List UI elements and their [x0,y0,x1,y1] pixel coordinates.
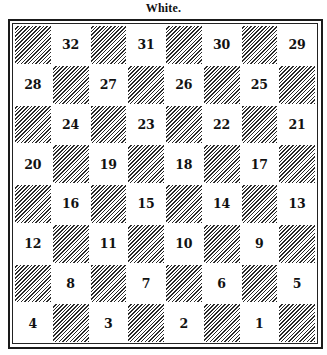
board-title: White. [0,1,327,16]
dark-square-hatched [279,66,315,104]
light-square: 28 [14,65,52,105]
square-number: 4 [29,316,38,331]
square-number: 12 [24,236,41,251]
light-square: 7 [127,264,165,304]
square-number: 27 [100,77,117,92]
square-number: 30 [213,37,230,52]
light-square: 26 [165,65,203,105]
square-number: 28 [24,77,41,92]
dark-square-hatched [91,185,127,223]
light-square: 13 [278,184,316,224]
dark-square-hatched [204,225,240,263]
square-number: 23 [137,117,154,132]
square-number: 7 [142,276,151,291]
light-square: 18 [165,144,203,184]
light-square: 12 [14,224,52,264]
square-number: 18 [175,157,192,172]
square-number: 8 [66,276,75,291]
square-number: 29 [288,37,305,52]
square-number: 20 [24,157,41,172]
dark-square-hatched [91,26,127,64]
dark-square-hatched [53,304,89,342]
light-square: 14 [203,184,241,224]
dark-square-hatched [204,66,240,104]
dark-square-hatched [279,304,315,342]
square-number: 15 [137,196,154,211]
dark-square-hatched [128,145,164,183]
light-square: 16 [52,184,90,224]
light-square: 21 [278,105,316,145]
dark-square-hatched [91,265,127,303]
light-square: 27 [90,65,128,105]
dark-square-hatched [53,225,89,263]
dark-square-hatched [166,265,202,303]
light-square: 24 [52,105,90,145]
square-number: 13 [288,196,305,211]
dark-square-hatched [166,106,202,144]
light-square: 9 [241,224,279,264]
light-square: 3 [90,303,128,343]
dark-square-hatched [166,26,202,64]
light-square: 11 [90,224,128,264]
square-number: 6 [217,276,226,291]
dark-square-hatched [53,145,89,183]
square-number: 24 [62,117,79,132]
dark-square-hatched [242,106,278,144]
light-square: 22 [203,105,241,145]
light-square: 31 [127,25,165,65]
dark-square-hatched [15,265,51,303]
light-square: 6 [203,264,241,304]
dark-square-hatched [15,26,51,64]
dark-square-hatched [204,145,240,183]
dark-square-hatched [242,265,278,303]
dark-square-hatched [279,225,315,263]
square-number: 31 [137,37,154,52]
square-number: 21 [288,117,305,132]
square-number: 16 [62,196,79,211]
dark-square-hatched [128,66,164,104]
square-number: 25 [251,77,268,92]
square-number: 10 [175,236,192,251]
light-square: 8 [52,264,90,304]
checkerboard: 3231302928272625242322212019181716151413… [14,25,316,343]
light-square: 15 [127,184,165,224]
square-number: 14 [213,196,230,211]
light-square: 19 [90,144,128,184]
dark-square-hatched [242,26,278,64]
light-square: 17 [241,144,279,184]
square-number: 1 [255,316,264,331]
square-number: 22 [213,117,230,132]
square-number: 32 [62,37,79,52]
square-number: 9 [255,236,264,251]
dark-square-hatched [204,304,240,342]
light-square: 32 [52,25,90,65]
light-square: 29 [278,25,316,65]
square-number: 17 [251,157,268,172]
light-square: 5 [278,264,316,304]
light-square: 1 [241,303,279,343]
light-square: 10 [165,224,203,264]
square-number: 3 [104,316,113,331]
dark-square-hatched [15,185,51,223]
light-square: 23 [127,105,165,145]
light-square: 30 [203,25,241,65]
square-number: 26 [175,77,192,92]
dark-square-hatched [242,185,278,223]
square-number: 5 [293,276,302,291]
square-number: 11 [100,236,117,251]
dark-square-hatched [166,185,202,223]
dark-square-hatched [53,66,89,104]
light-square: 2 [165,303,203,343]
dark-square-hatched [91,106,127,144]
dark-square-hatched [15,106,51,144]
light-square: 20 [14,144,52,184]
dark-square-hatched [128,225,164,263]
dark-square-hatched [128,304,164,342]
square-number: 2 [180,316,189,331]
square-number: 19 [100,157,117,172]
light-square: 4 [14,303,52,343]
light-square: 25 [241,65,279,105]
dark-square-hatched [279,145,315,183]
